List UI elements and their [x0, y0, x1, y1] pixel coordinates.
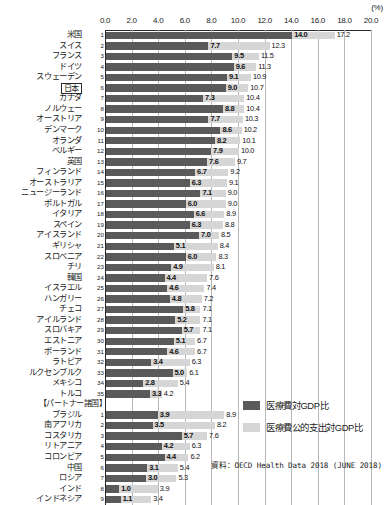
chart-row: スイス27.712.3 — [0, 41, 386, 52]
value-public: 3.9 — [160, 484, 169, 495]
value-public: 4.2 — [164, 389, 173, 400]
row-rank: 19 — [92, 220, 104, 231]
row-bars: 4.87.2 — [106, 294, 372, 305]
bar-total — [106, 127, 220, 134]
value-public: 5.3 — [178, 473, 187, 484]
bar-total — [106, 232, 199, 239]
row-bars: 6.79.2 — [106, 167, 372, 178]
chart-row: 米国114.017.2 — [0, 30, 386, 41]
bar-total — [106, 95, 203, 102]
value-public: 9.0 — [228, 188, 237, 199]
chart-row: インドネシア91.13.4 — [0, 494, 386, 505]
value-total: 4.6 — [169, 283, 178, 294]
row-label-スウェーデン: スウェーデン — [36, 72, 82, 83]
chart-row: ルクセンブルク335.06.1 — [0, 368, 386, 379]
bar-total — [106, 53, 232, 60]
row-rank: 5 — [92, 452, 104, 463]
row-label-米国: 米国 — [67, 30, 82, 41]
value-public: 7.1 — [202, 304, 211, 315]
row-label-韓国: 韓国 — [67, 273, 82, 284]
row-label-ポーランド: ポーランド — [44, 347, 82, 358]
value-total: 1.1 — [123, 494, 132, 505]
row-rank: 12 — [92, 146, 104, 157]
value-total: 4.6 — [169, 347, 178, 358]
row-label-ドイツ: ドイツ — [59, 62, 82, 73]
bar-total — [106, 422, 153, 429]
chart-row: ベルギー127.910.0 — [0, 146, 386, 157]
row-rank: 13 — [92, 157, 104, 168]
row-label-英国: 英国 — [67, 157, 82, 168]
row-rank: 4 — [92, 441, 104, 452]
row-label-ベルギー: ベルギー — [52, 146, 82, 157]
row-label-オーストラリア: オーストラリア — [29, 178, 82, 189]
row-label-フィンランド: フィンランド — [36, 167, 82, 178]
value-public: 6.3 — [192, 357, 201, 368]
value-total: 5.8 — [185, 304, 194, 315]
row-label-チリ: チリ — [67, 262, 82, 273]
bar-total — [106, 464, 147, 471]
x-axis-tick-16.0: 16.0 — [311, 16, 325, 25]
row-rank: 8 — [92, 484, 104, 495]
legend-item-total: 医療費対GDP比 — [243, 398, 363, 412]
x-axis-tick-8.0: 8.0 — [206, 16, 216, 25]
bar-total — [106, 443, 162, 450]
value-total: 5.7 — [184, 325, 193, 336]
chart-row: スウェーデン59.110.9 — [0, 72, 386, 83]
row-label-フランス: フランス — [52, 51, 82, 62]
row-rank: 9 — [92, 494, 104, 505]
row-label-スロベニア: スロベニア — [44, 252, 82, 263]
value-total: 3.9 — [160, 410, 169, 421]
value-public: 6.7 — [197, 336, 206, 347]
row-bars: 3.46.3 — [106, 357, 372, 368]
row-rank: 23 — [92, 262, 104, 273]
chart-row: オランダ118.210.1 — [0, 136, 386, 147]
chart-row: ラトビア323.46.3 — [0, 357, 386, 368]
row-label-中国: 中国 — [67, 463, 82, 474]
chart-row: スペイン196.38.8 — [0, 220, 386, 231]
row-label-スイス: スイス — [59, 41, 82, 52]
chart-row: スロバキア295.77.1 — [0, 325, 386, 336]
x-axis-tick-2.0: 2.0 — [126, 16, 136, 25]
row-label-南アフリカ: 南アフリカ — [44, 420, 82, 431]
chart-row: オーストラリア156.39.1 — [0, 178, 386, 189]
row-rank: 9 — [92, 114, 104, 125]
value-total: 5.7 — [184, 431, 193, 442]
row-rank: 6 — [92, 83, 104, 94]
value-total: 3.5 — [155, 420, 164, 431]
value-public: 10.4 — [246, 93, 259, 104]
bar-total — [106, 32, 292, 39]
value-total: 5.2 — [177, 315, 186, 326]
row-label-ロシア: ロシア — [59, 473, 82, 484]
row-bars: 7.69.7 — [106, 157, 372, 168]
bar-total — [106, 390, 150, 397]
value-public: 6.2 — [190, 452, 199, 463]
row-rank: 1 — [92, 410, 104, 421]
chart-row: ポーランド314.66.7 — [0, 347, 386, 358]
chart-row: 韓国244.47.6 — [0, 273, 386, 284]
value-total: 7.7 — [210, 114, 219, 125]
legend-label-total: 医療費対GDP比 — [266, 398, 328, 412]
row-bars: 7.08.5 — [106, 230, 372, 241]
bar-total — [106, 411, 158, 418]
row-rank: 21 — [92, 241, 104, 252]
row-rank: 3 — [92, 431, 104, 442]
value-total: 3.1 — [149, 463, 158, 474]
legend-swatch-public-icon — [243, 423, 260, 432]
row-bars: 6.38.8 — [106, 220, 372, 231]
row-bars: 1.03.9 — [106, 484, 372, 495]
row-label-ルクセンブルク: ルクセンブルク — [29, 368, 82, 379]
chart-row: フランス39.511.5 — [0, 51, 386, 62]
value-total: 9.5 — [234, 51, 243, 62]
row-bars: 6.08.3 — [106, 252, 372, 263]
bar-total — [106, 475, 146, 482]
value-public: 10.1 — [242, 136, 255, 147]
value-public: 9.2 — [230, 167, 239, 178]
row-bars: 5.87.1 — [106, 304, 372, 315]
chart-row: ギリシャ215.18.4 — [0, 241, 386, 252]
row-bars: 4.66.7 — [106, 347, 372, 358]
value-total: 7.7 — [210, 41, 219, 52]
axis-unit-label: (%) — [371, 3, 383, 12]
row-bars: 4.67.4 — [106, 283, 372, 294]
bar-total — [106, 306, 183, 313]
row-rank: 25 — [92, 283, 104, 294]
